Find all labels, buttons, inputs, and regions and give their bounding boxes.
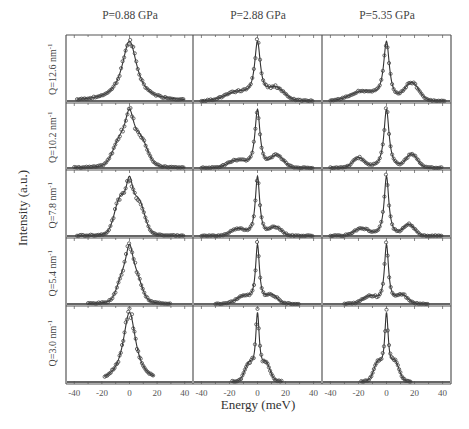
data-point bbox=[255, 240, 258, 243]
x-tick-label: -40 bbox=[189, 388, 213, 398]
x-tick-label: -20 bbox=[217, 388, 241, 398]
x-tick-label: -20 bbox=[346, 388, 370, 398]
fit-curve bbox=[232, 312, 282, 381]
x-tick-label: -40 bbox=[62, 388, 86, 398]
fit-curve bbox=[344, 244, 428, 304]
data-point bbox=[384, 173, 387, 176]
x-tick-label: 20 bbox=[145, 388, 169, 398]
fit-curve bbox=[105, 312, 155, 376]
fit-curve bbox=[77, 41, 185, 99]
fit-curve bbox=[88, 244, 171, 303]
fit-curve bbox=[330, 41, 445, 101]
data-point bbox=[255, 38, 258, 41]
column-title-p535: P=5.35 GPa bbox=[323, 9, 451, 21]
x-tick-label: -40 bbox=[318, 388, 342, 398]
row-label-q54: Q=5.4 nm-1 bbox=[46, 233, 58, 313]
column-title-p288: P=2.88 GPa bbox=[194, 9, 322, 21]
fit-curve bbox=[215, 244, 299, 304]
x-tick-label: 0 bbox=[375, 388, 399, 398]
fit-curve bbox=[201, 109, 313, 168]
x-tick-label: 40 bbox=[431, 388, 455, 398]
x-tick-label: 20 bbox=[274, 388, 298, 398]
fit-curve bbox=[361, 312, 411, 381]
plot-grid bbox=[0, 0, 469, 429]
column-title-p088: P=0.88 GPa bbox=[66, 9, 194, 21]
fit-curve bbox=[201, 41, 313, 101]
fit-curve bbox=[74, 109, 184, 167]
x-tick-label: 20 bbox=[403, 388, 427, 398]
x-tick-label: 0 bbox=[246, 388, 270, 398]
fit-curve bbox=[330, 109, 442, 168]
data-point bbox=[384, 241, 387, 244]
x-tick-label: 0 bbox=[118, 388, 142, 398]
x-axis-title: Energy (meV) bbox=[193, 397, 323, 413]
x-tick-label: -20 bbox=[90, 388, 114, 398]
fit-curve bbox=[330, 176, 442, 236]
y-axis-title: Intensity (a.u.) bbox=[15, 163, 31, 253]
fit-curve bbox=[201, 176, 313, 236]
row-label-q30: Q=3.0 nm-1 bbox=[46, 303, 58, 383]
